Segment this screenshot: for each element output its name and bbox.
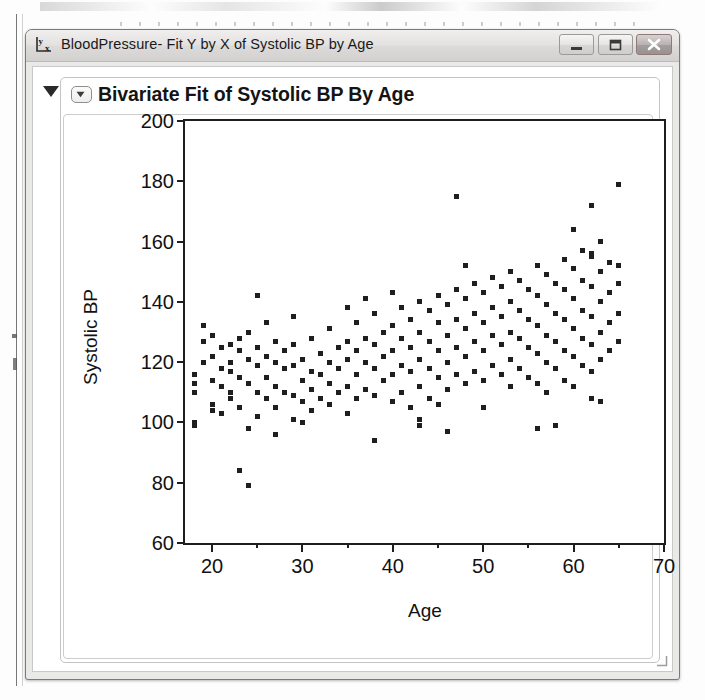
maximize-button[interactable] [598, 34, 633, 55]
scatter-point [417, 417, 422, 422]
background-mark [12, 334, 17, 338]
scatter-point [237, 468, 242, 473]
y-by-x-icon: y x [34, 35, 56, 55]
scatter-point [598, 299, 603, 304]
plot-panel: Systolic BP Age 608010012014016018020020… [63, 114, 653, 659]
scatter-point [499, 342, 504, 347]
x-minor-tick [618, 543, 620, 548]
scatter-point [616, 263, 621, 268]
scatter-point [273, 432, 278, 437]
x-axis-title: Age [408, 600, 442, 622]
y-tick [177, 361, 185, 363]
x-minor-tick [527, 543, 529, 548]
minimize-button[interactable] [559, 34, 594, 55]
scatter-point [589, 342, 594, 347]
header-disclosure-icon[interactable] [71, 86, 92, 103]
outline-disclosure-triangle-icon[interactable] [43, 86, 59, 97]
scatter-point [445, 302, 450, 307]
scatter-point [580, 248, 585, 253]
x-tick-label: 60 [562, 555, 584, 578]
scatter-point [562, 257, 567, 262]
scatter-point [363, 336, 368, 341]
scatter-point [589, 284, 594, 289]
scatter-point [372, 311, 377, 316]
scatter-point [553, 339, 558, 344]
x-tick-label: 20 [201, 555, 223, 578]
y-tick [177, 241, 185, 243]
scatter-point [390, 399, 395, 404]
scatter-point [201, 323, 206, 328]
background-mark [13, 358, 17, 370]
scatter-point [192, 372, 197, 377]
scatter-point [544, 302, 549, 307]
scatter-point [490, 275, 495, 280]
scatter-point [417, 330, 422, 335]
x-minor-tick [437, 543, 439, 548]
scatter-point [264, 320, 269, 325]
scatter-point [300, 378, 305, 383]
window-titlebar[interactable]: y x BloodPressure- Fit Y by X of Systoli… [26, 30, 679, 62]
scatter-point [553, 366, 558, 371]
scatter-point [273, 339, 278, 344]
scatter-point [399, 390, 404, 395]
y-tick-label: 140 [141, 290, 174, 313]
svg-text:y: y [39, 36, 44, 46]
scatter-point [544, 333, 549, 338]
scatter-point [354, 372, 359, 377]
scatter-point [508, 330, 513, 335]
scatter-point [372, 393, 377, 398]
scatter-point [616, 311, 621, 316]
scatter-point [490, 333, 495, 338]
scatter-point [427, 308, 432, 313]
y-tick [177, 180, 185, 182]
scatter-point [499, 372, 504, 377]
scatter-point [427, 339, 432, 344]
scatter-point [372, 342, 377, 347]
x-tick [211, 543, 213, 552]
scatter-point [535, 323, 540, 328]
scatter-point [472, 369, 477, 374]
scatter-point [589, 314, 594, 319]
scatter-point [580, 336, 585, 341]
scatter-point [544, 272, 549, 277]
scatter-point [309, 369, 314, 374]
scatter-point [517, 336, 522, 341]
scatter-point [399, 363, 404, 368]
scatter-point [372, 366, 377, 371]
scatter-point [255, 363, 260, 368]
scatter-point [219, 366, 224, 371]
scatter-point [192, 381, 197, 386]
scatter-point [300, 420, 305, 425]
scatter-point [291, 417, 296, 422]
scatter-point [562, 378, 567, 383]
scatter-point [408, 345, 413, 350]
scatter-point [201, 339, 206, 344]
scatter-point [535, 263, 540, 268]
scatter-point [526, 375, 531, 380]
scatter-point [273, 405, 278, 410]
scatter-point [336, 390, 341, 395]
scatter-plot-frame[interactable]: 6080100120140160180200203040506070 [183, 119, 666, 545]
scatter-point [210, 333, 215, 338]
scatter-point [607, 290, 612, 295]
x-tick-label: 70 [653, 555, 675, 578]
scatter-point [282, 366, 287, 371]
scatter-point [571, 227, 576, 232]
close-button[interactable] [636, 34, 672, 55]
scatter-point [463, 354, 468, 359]
scatter-point [318, 372, 323, 377]
scatter-point [372, 438, 377, 443]
scatter-point [327, 360, 332, 365]
svg-text:x: x [45, 43, 50, 53]
scatter-point [264, 396, 269, 401]
resize-grip[interactable] [654, 654, 668, 668]
scatter-point [580, 363, 585, 368]
scatter-point [535, 381, 540, 386]
scatter-point [571, 354, 576, 359]
scatter-point [553, 281, 558, 286]
scatter-point [408, 405, 413, 410]
scatter-point [562, 287, 567, 292]
scatter-point [616, 182, 621, 187]
scatter-point [345, 339, 350, 344]
scatter-point [219, 345, 224, 350]
